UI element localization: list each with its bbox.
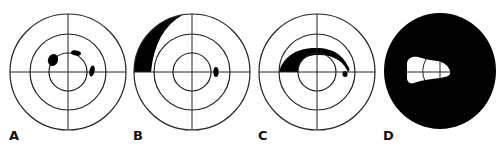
panel-b: B <box>133 14 250 143</box>
scotoma <box>46 53 60 68</box>
panel-c: C <box>258 14 375 143</box>
panel-label-a: A <box>9 128 19 143</box>
scotoma <box>213 67 218 77</box>
panel-a: A <box>9 14 126 143</box>
panel-d: D <box>383 13 496 143</box>
panel-label-b: B <box>133 128 143 143</box>
scotoma <box>71 50 82 57</box>
panel-label-d: D <box>383 128 394 143</box>
panel-label-c: C <box>258 128 268 143</box>
arcuate-scotoma <box>279 48 350 72</box>
scotoma <box>88 65 95 77</box>
visual-field-figure: A B C D <box>0 0 503 148</box>
